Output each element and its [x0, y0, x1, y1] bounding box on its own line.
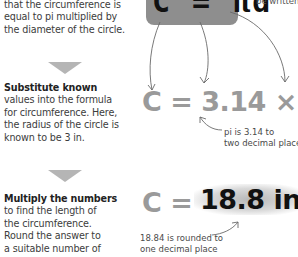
- step-3-heading: Multiply the numbers: [4, 193, 117, 204]
- step-3-text: Multiply the numbers to find the length …: [4, 193, 154, 255]
- step-3-line: a suitable number of: [4, 243, 154, 255]
- rounding-note-line: one decimal place: [140, 244, 223, 255]
- rounding-note-line: 18.84 is rounded to: [140, 233, 223, 244]
- equation-result-answer: 18.8 in: [194, 184, 298, 215]
- rounding-note: 18.84 is rounded to one decimal place: [140, 233, 223, 254]
- down-arrow-icon: [48, 170, 82, 182]
- step-1-line: equal to pi multiplied by: [4, 11, 154, 23]
- step-3-line: to find the length of: [4, 205, 154, 217]
- step-2-heading: Substitute known: [4, 82, 97, 93]
- pi-note: pi is 3.14 to two decimal places: [224, 127, 298, 148]
- step-3-line: Round the answer to: [4, 230, 154, 242]
- step-1-line: that the circumference is: [4, 0, 154, 11]
- step-1-text: that the circumference is equal to pi mu…: [4, 0, 154, 36]
- pi-note-line: pi is 3.14 to: [224, 127, 298, 138]
- step-2-line: for circumference. Here,: [4, 107, 154, 119]
- step-1-line: the diameter of the circle.: [4, 24, 154, 36]
- down-arrow-icon: [48, 62, 82, 74]
- equation-substituted: C = 3.14 × 6: [142, 86, 298, 117]
- step-2-text: Substitute known values into the formula…: [4, 82, 154, 144]
- step-2-line: the radius of the circle is: [4, 119, 154, 131]
- step-2-line: known to be 3 in.: [4, 132, 154, 144]
- equation-result-lhs: C =: [142, 187, 192, 218]
- step-3-line: the circumference.: [4, 218, 154, 230]
- step-2-line: values into the formula: [4, 94, 154, 106]
- pi-note-line: two decimal places: [224, 138, 298, 149]
